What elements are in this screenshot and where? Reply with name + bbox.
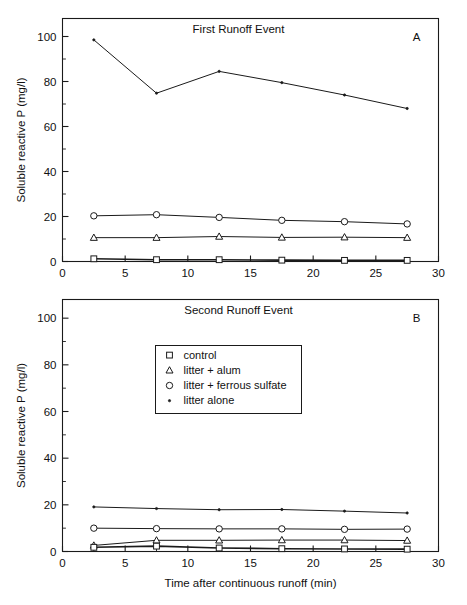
legend-item-label: litter + alum bbox=[184, 364, 241, 376]
x-tick-label: 10 bbox=[181, 267, 194, 279]
marker-dot-small bbox=[155, 507, 157, 509]
series-litter-alone bbox=[93, 506, 409, 514]
series-litter-ferrous-sulfate bbox=[91, 525, 411, 533]
y-axis-title: Soluble reactive P (mg/l) bbox=[15, 363, 27, 488]
x-tick-label: 25 bbox=[369, 557, 382, 569]
y-tick-label: 20 bbox=[44, 499, 57, 511]
marker-dot-small bbox=[343, 510, 345, 512]
marker-dot-small bbox=[281, 508, 283, 510]
marker-circle-open bbox=[216, 526, 222, 532]
marker-dot-small bbox=[406, 107, 408, 109]
marker-circle-open bbox=[166, 382, 172, 388]
y-tick-label: 0 bbox=[50, 546, 56, 558]
y-axis-title: Soluble reactive P (mg/l) bbox=[15, 77, 27, 202]
series-litter-ferrous-sulfate bbox=[91, 212, 411, 228]
marker-dot-small bbox=[218, 70, 220, 72]
x-tick-label: 10 bbox=[181, 557, 194, 569]
legend-item-label: litter + ferrous sulfate bbox=[184, 379, 287, 391]
marker-square-open bbox=[404, 546, 410, 552]
marker-square-open bbox=[342, 546, 348, 552]
plot-frame-b bbox=[63, 300, 439, 552]
panel-B: 051015202530020406080100Second Runoff Ev… bbox=[15, 300, 445, 570]
y-tick-label: 100 bbox=[37, 312, 56, 324]
x-tick-label: 25 bbox=[369, 267, 382, 279]
x-tick-label: 5 bbox=[122, 267, 128, 279]
marker-square-open bbox=[279, 546, 285, 552]
marker-dot-small bbox=[93, 39, 95, 41]
marker-square-open bbox=[404, 257, 410, 263]
y-tick-label: 100 bbox=[37, 31, 56, 43]
y-tick-label: 20 bbox=[44, 211, 57, 223]
panel-letter-a: A bbox=[413, 31, 421, 43]
x-tick-label: 30 bbox=[432, 557, 445, 569]
legend-item[interactable]: litter + ferrous sulfate bbox=[166, 379, 286, 391]
x-tick-label: 15 bbox=[244, 267, 257, 279]
x-tick-label: 0 bbox=[59, 267, 65, 279]
marker-circle-open bbox=[153, 212, 159, 218]
x-tick-label: 5 bbox=[122, 557, 128, 569]
marker-square-open bbox=[216, 257, 222, 263]
panel-title-a: First Runoff Event bbox=[193, 23, 286, 35]
y-tick-label: 40 bbox=[44, 452, 57, 464]
marker-square-open bbox=[91, 256, 97, 262]
marker-circle-open bbox=[216, 214, 222, 220]
marker-circle-open bbox=[91, 525, 97, 531]
y-tick-label: 40 bbox=[44, 166, 57, 178]
marker-dot-small bbox=[93, 506, 95, 508]
series-path bbox=[94, 215, 407, 224]
marker-circle-open bbox=[341, 218, 347, 224]
marker-square-open bbox=[167, 352, 173, 358]
marker-circle-open bbox=[404, 221, 410, 227]
plot-frame-a bbox=[63, 19, 439, 262]
marker-circle-open bbox=[153, 525, 159, 531]
marker-dot-small bbox=[343, 94, 345, 96]
x-tick-label: 30 bbox=[432, 267, 445, 279]
marker-square-open bbox=[154, 543, 160, 549]
y-tick-label: 60 bbox=[44, 406, 57, 418]
panel-A: 051015202530020406080100First Runoff Eve… bbox=[15, 19, 445, 280]
marker-dot-small bbox=[168, 400, 170, 402]
chart-canvas: 051015202530020406080100First Runoff Eve… bbox=[0, 0, 467, 605]
marker-circle-open bbox=[279, 526, 285, 532]
y-tick-label: 80 bbox=[44, 359, 57, 371]
series-path bbox=[94, 540, 407, 545]
series-litter-alone bbox=[93, 39, 409, 110]
marker-square-open bbox=[279, 257, 285, 263]
marker-circle-open bbox=[341, 526, 347, 532]
x-axis-title: Time after continuous runoff (min) bbox=[165, 577, 337, 589]
marker-dot-small bbox=[281, 81, 283, 83]
marker-square-open bbox=[91, 544, 97, 550]
y-tick-label: 80 bbox=[44, 76, 57, 88]
marker-circle-open bbox=[91, 213, 97, 219]
marker-dot-small bbox=[406, 512, 408, 514]
series-path bbox=[94, 528, 407, 529]
series-litter-alum bbox=[90, 233, 410, 240]
marker-circle-open bbox=[404, 526, 410, 532]
y-tick-label: 60 bbox=[44, 121, 57, 133]
x-tick-label: 0 bbox=[59, 557, 65, 569]
marker-square-open bbox=[216, 545, 222, 551]
series-path bbox=[94, 40, 407, 109]
x-tick-label: 20 bbox=[307, 267, 320, 279]
marker-dot-small bbox=[218, 509, 220, 511]
series-path bbox=[94, 237, 407, 238]
marker-circle-open bbox=[279, 217, 285, 223]
panel-title-b: Second Runoff Event bbox=[184, 304, 293, 316]
marker-square-open bbox=[342, 257, 348, 263]
y-tick-label: 0 bbox=[50, 256, 56, 268]
legend-item-label: control bbox=[184, 349, 217, 361]
x-tick-label: 20 bbox=[307, 557, 320, 569]
legend-item-label: litter alone bbox=[184, 394, 235, 406]
marker-square-open bbox=[154, 257, 160, 263]
legend: controllitter + alumlitter + ferrous sul… bbox=[156, 346, 302, 414]
x-tick-label: 15 bbox=[244, 557, 257, 569]
series-path bbox=[94, 507, 407, 513]
panel-letter-b: B bbox=[413, 312, 421, 324]
figure-root: 051015202530020406080100First Runoff Eve… bbox=[0, 0, 467, 605]
marker-dot-small bbox=[155, 92, 157, 94]
